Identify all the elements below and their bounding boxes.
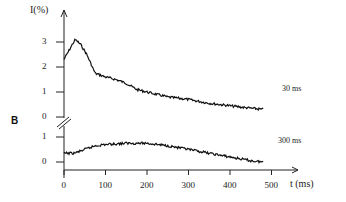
y-tick-label: 0 <box>42 111 47 121</box>
series-label-300ms: 300 ms <box>278 136 301 145</box>
x-tick-label: 500 <box>265 180 279 190</box>
axes <box>56 10 298 178</box>
data-traces <box>64 39 263 162</box>
y-tick-label: 1 <box>42 131 47 141</box>
panel-label: B <box>11 115 18 126</box>
chart <box>0 0 346 202</box>
y-tick-label: 0 <box>42 156 47 166</box>
y-tick-label: 1 <box>42 86 47 96</box>
x-tick-label: 0 <box>62 180 67 190</box>
x-axis-label: t (ms) <box>290 178 314 189</box>
series-label-30ms: 30 ms <box>282 84 301 93</box>
x-tick-label: 200 <box>140 180 154 190</box>
x-tick-label: 400 <box>223 180 237 190</box>
y-tick-label: 2 <box>42 61 47 71</box>
trace-300ms <box>64 142 263 163</box>
trace-30ms <box>64 39 263 110</box>
y-tick-label: 3 <box>42 36 47 46</box>
x-tick-label: 100 <box>99 180 113 190</box>
y-axis-label: I(%) <box>30 4 48 15</box>
x-tick-label: 300 <box>182 180 196 190</box>
